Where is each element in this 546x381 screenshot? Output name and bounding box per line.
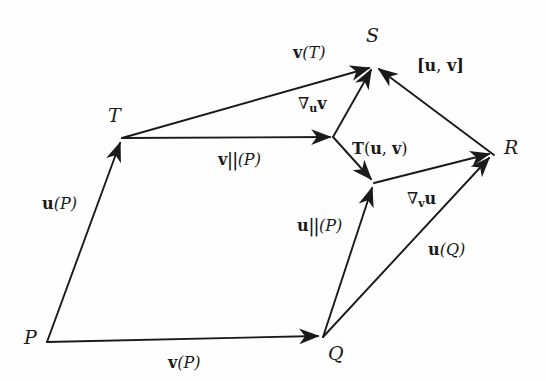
label-v-at-T-vector: v xyxy=(293,43,302,62)
nabla-u-v-subscript: u xyxy=(309,102,317,115)
torsion-u: u xyxy=(370,139,382,158)
label-commutator: [u, v] xyxy=(417,58,464,74)
commutator-v: v xyxy=(447,56,456,75)
label-nabla-v-u: ∇vu xyxy=(407,191,436,209)
label-u-parallel-bars: || xyxy=(309,218,319,236)
point-label-T: T xyxy=(108,106,121,125)
label-v-at-P-vector: v xyxy=(168,353,177,372)
label-v-parallel-bars: || xyxy=(227,152,237,170)
commutator-close-bracket: ] xyxy=(456,56,464,75)
label-u-at-P-vector: u xyxy=(42,194,54,213)
label-u-parallel-arg: (P) xyxy=(319,216,342,235)
label-torsion-tensor: T(u, v) xyxy=(352,141,408,157)
label-u-at-Q-vector: u xyxy=(428,240,440,259)
label-u-parallel-at-P: u||(P) xyxy=(297,218,342,234)
commutator-open-bracket: [ xyxy=(417,56,425,75)
vector-diagram-graphic xyxy=(0,0,546,381)
arrow-u-parallel-at-P xyxy=(323,188,372,337)
torsion-close-paren: ) xyxy=(401,139,407,158)
label-u-at-P: u(P) xyxy=(42,196,77,212)
nabla-symbol-icon: ∇ xyxy=(298,94,309,113)
point-label-S: S xyxy=(366,26,379,45)
arrow-v-at-P xyxy=(47,336,318,342)
label-u-parallel-vector: u xyxy=(297,216,309,235)
point-label-Q: Q xyxy=(328,344,344,363)
nabla-u-v-main: v xyxy=(317,94,326,113)
label-v-at-T: v(T) xyxy=(293,45,325,61)
label-v-at-P: v(P) xyxy=(168,355,201,371)
label-v-at-T-arg: (T) xyxy=(302,43,325,62)
label-v-parallel-vector: v xyxy=(218,150,227,169)
diagram-canvas: P T Q S R u(P) v(P) v(T) v||(P) u||(P) u… xyxy=(0,0,546,381)
nabla-symbol-icon: ∇ xyxy=(407,189,418,208)
label-u-at-P-arg: (P) xyxy=(54,194,77,213)
arrow-v-at-T xyxy=(122,68,369,138)
label-v-at-P-arg: (P) xyxy=(177,353,200,372)
torsion-v: v xyxy=(392,139,401,158)
commutator-u: u xyxy=(425,56,437,75)
label-v-parallel-at-P: v||(P) xyxy=(218,152,261,168)
torsion-comma: , xyxy=(382,139,387,158)
point-label-R: R xyxy=(504,138,518,157)
commutator-comma: , xyxy=(436,56,441,75)
label-u-at-Q-arg: (Q) xyxy=(440,240,466,259)
arrow-nabla-u-v xyxy=(333,70,371,137)
torsion-T: T xyxy=(352,139,364,158)
label-nabla-u-v: ∇uv xyxy=(298,96,326,114)
arrow-u-at-P xyxy=(47,143,120,342)
arrow-v-parallel-at-P xyxy=(122,137,330,138)
label-u-at-Q: u(Q) xyxy=(428,242,465,258)
label-v-parallel-arg: (P) xyxy=(238,150,261,169)
nabla-v-u-main: u xyxy=(425,189,437,208)
arrow-nabla-v-u xyxy=(374,154,489,183)
point-label-P: P xyxy=(24,328,37,347)
